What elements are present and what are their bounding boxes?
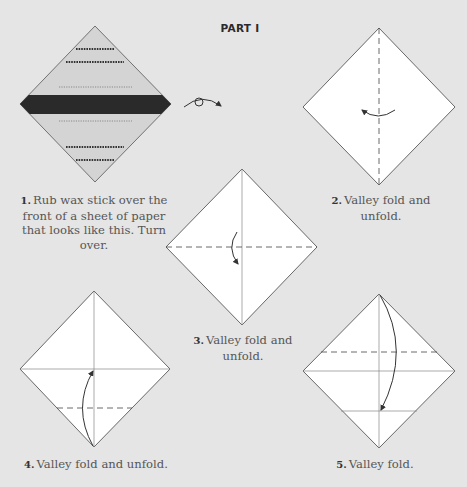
step-3-caption: 3.Valley fold and unfold.: [188, 333, 298, 363]
step-number: 2.: [331, 195, 341, 206]
step-number: 3.: [193, 335, 203, 346]
diagram-step-5: [303, 294, 455, 448]
turn-over-icon: [184, 98, 221, 107]
diagram-step-3: [166, 169, 317, 325]
step-2-caption: 2.Valley fold and unfold.: [326, 193, 436, 223]
step-number: 1.: [21, 195, 31, 206]
step-5-caption: 5.Valley fold.: [320, 457, 430, 473]
step-number: 5.: [336, 459, 346, 470]
step-1-caption: 1.Rub wax stick over the front of a shee…: [18, 193, 170, 252]
diagram-step-4: [20, 291, 170, 447]
diagram-step-2: [303, 28, 455, 185]
diagram-step-1: [0, 26, 200, 182]
step-4-caption: 4.Valley fold and unfold.: [16, 457, 176, 473]
step-number: 4.: [24, 459, 34, 470]
